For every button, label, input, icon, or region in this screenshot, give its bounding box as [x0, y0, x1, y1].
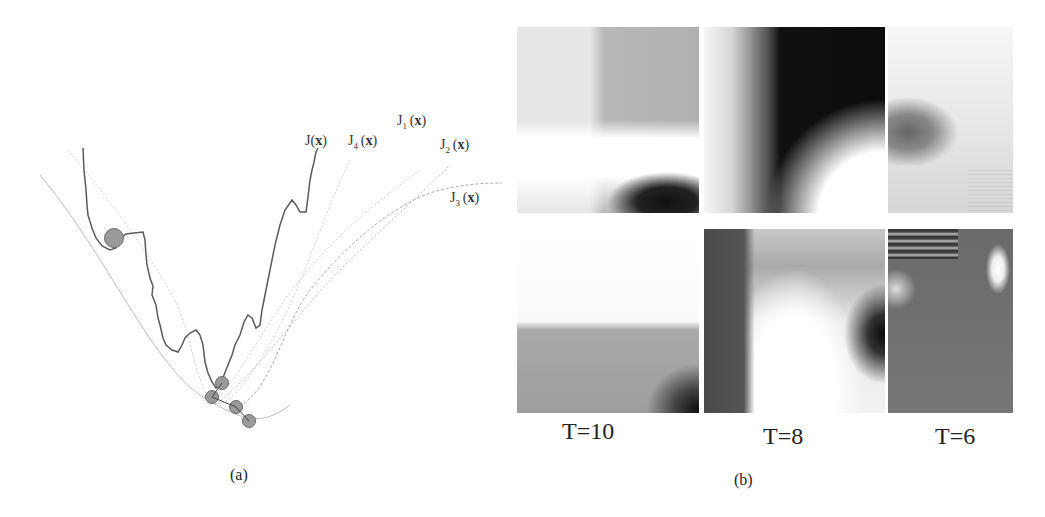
image-t10-top [517, 27, 699, 213]
label-t8: T=8 [763, 423, 803, 450]
label-j3: J3 (x) [450, 190, 479, 208]
label-j2: J2 (x) [440, 137, 469, 155]
caption-b: (b) [734, 471, 753, 489]
curve-j3 [230, 183, 502, 410]
label-j1: J1 (x) [397, 113, 426, 131]
label-j: J(x) [305, 133, 327, 149]
label-j4: J4 (x) [348, 133, 377, 151]
image-t6-top [888, 27, 1013, 213]
image-t8-top [704, 27, 885, 213]
energy-landscape-plot [0, 0, 520, 450]
label-t6: T=6 [935, 423, 975, 450]
image-t10-bottom [517, 229, 699, 413]
curve-j-main [83, 148, 318, 388]
caption-a: (a) [230, 466, 248, 484]
curve-j2 [215, 165, 450, 405]
curve-j-outer [40, 175, 290, 419]
curve-j1 [210, 170, 420, 405]
label-t10: T=10 [562, 418, 614, 445]
image-t8-bottom [704, 229, 885, 413]
image-t6-bottom [888, 229, 1013, 413]
ball-start [105, 229, 124, 248]
